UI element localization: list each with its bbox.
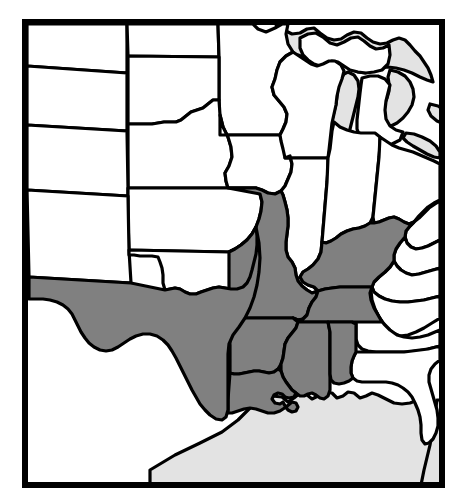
state-colorado[interactable]: Colorado xyxy=(27,125,128,196)
state-wyoming[interactable]: Wyoming xyxy=(27,66,127,131)
state-new-mexico[interactable]: New Mexico xyxy=(27,190,131,283)
us-regional-map: Gulf of Mexico atlantic Lake Superior La… xyxy=(0,0,465,497)
state-alabama[interactable]: Alabama xyxy=(328,322,356,384)
map-page: Gulf of Mexico atlantic Lake Superior La… xyxy=(0,0,465,497)
state-north-dakota[interactable]: North Dakota xyxy=(127,24,219,57)
